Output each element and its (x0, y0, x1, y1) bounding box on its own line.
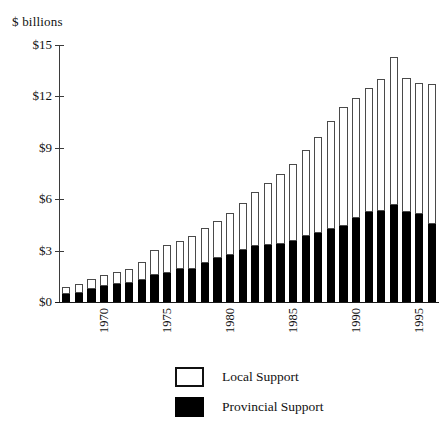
bar-segment-local-support (75, 284, 83, 293)
bar-segment-local-support (113, 272, 121, 284)
bar-segment-provincial-support (302, 236, 310, 302)
bar-segment-local-support (125, 269, 133, 283)
bar-1991 (352, 98, 360, 302)
bar-1983 (251, 192, 259, 302)
bar-1989 (327, 121, 335, 302)
bar-1994 (390, 57, 398, 302)
bar-segment-local-support (339, 107, 347, 226)
x-axis-tick-label-1985: 1985 (286, 308, 301, 333)
legend-item-local: Local Support (175, 362, 415, 392)
bar-1981 (226, 213, 234, 302)
bar-segment-provincial-support (188, 269, 196, 302)
bar-1990 (339, 107, 347, 302)
bar-segment-local-support (390, 57, 398, 205)
bar-segment-local-support (188, 236, 196, 269)
y-axis-tick-label: $15 (33, 37, 53, 53)
x-axis-tick-label-1970: 1970 (97, 308, 112, 333)
bar-1988 (314, 137, 322, 302)
bar-segment-local-support (100, 275, 108, 286)
bar-segment-provincial-support (87, 289, 95, 302)
bar-segment-provincial-support (352, 218, 360, 302)
bar-1975 (150, 250, 158, 302)
bar-segment-provincial-support (428, 224, 436, 302)
bar-1973 (125, 269, 133, 302)
bar-segment-local-support (213, 221, 221, 258)
bar-1980 (213, 221, 221, 302)
bar-segment-local-support (239, 203, 247, 250)
bar-segment-local-support (276, 174, 284, 243)
y-axis-tick-labels: $0$3$6$9$12$15 (0, 0, 52, 443)
y-axis-tick-label: $0 (39, 294, 52, 310)
legend-swatch-local (175, 367, 204, 387)
bar-1985 (276, 174, 284, 302)
bar-segment-provincial-support (276, 244, 284, 302)
x-axis-line (55, 302, 439, 303)
bar-segment-provincial-support (226, 255, 234, 302)
bar-segment-provincial-support (113, 284, 121, 302)
bar-1978 (188, 236, 196, 302)
bar-segment-provincial-support (390, 205, 398, 302)
bar-1996 (415, 83, 423, 302)
bar-1992 (365, 88, 373, 302)
legend-item-prov: Provincial Support (175, 392, 415, 422)
bar-segment-provincial-support (150, 275, 158, 302)
bar-segment-provincial-support (100, 286, 108, 302)
bar-segment-provincial-support (75, 293, 83, 302)
bar-segment-local-support (314, 137, 322, 233)
plot-area (60, 45, 438, 302)
bar-1972 (113, 272, 121, 302)
chart-legend: Local SupportProvincial Support (175, 362, 415, 422)
bar-segment-local-support (327, 121, 335, 229)
bar-1995 (402, 78, 410, 302)
x-axis-tick-label-1975: 1975 (160, 308, 175, 333)
bar-segment-provincial-support (377, 211, 385, 302)
bar-segment-provincial-support (402, 212, 410, 302)
bar-1993 (377, 79, 385, 302)
legend-label: Local Support (222, 369, 299, 385)
chart-figure: $ billions $0$3$6$9$12$15 19701975198019… (0, 0, 446, 443)
bar-segment-local-support (163, 245, 171, 272)
bar-segment-local-support (138, 262, 146, 280)
bar-segment-provincial-support (365, 212, 373, 302)
bar-1986 (289, 164, 297, 302)
bar-segment-provincial-support (314, 233, 322, 302)
y-axis-tick-label: $9 (39, 140, 52, 156)
bar-segment-provincial-support (327, 229, 335, 302)
bar-segment-local-support (302, 150, 310, 236)
y-axis-tick-label: $12 (33, 88, 53, 104)
bar-segment-provincial-support (264, 245, 272, 302)
bar-segment-provincial-support (239, 250, 247, 302)
bar-1976 (163, 245, 171, 302)
bar-segment-provincial-support (176, 269, 184, 302)
bar-1969 (75, 284, 83, 302)
bar-segment-provincial-support (289, 241, 297, 302)
bar-segment-local-support (289, 164, 297, 241)
bar-1977 (176, 241, 184, 302)
bar-segment-local-support (176, 241, 184, 269)
bar-segment-local-support (251, 192, 259, 246)
bar-segment-provincial-support (339, 226, 347, 302)
bar-segment-provincial-support (138, 280, 146, 302)
x-axis-tick-label-1995: 1995 (412, 308, 427, 333)
bar-1982 (239, 203, 247, 302)
bar-segment-local-support (201, 228, 209, 263)
x-axis-tick-label-1980: 1980 (223, 308, 238, 333)
bar-segment-provincial-support (62, 294, 70, 302)
bar-1970 (87, 279, 95, 302)
bar-segment-local-support (402, 78, 410, 212)
bar-segment-local-support (428, 84, 436, 224)
bar-segment-local-support (365, 88, 373, 212)
legend-swatch-prov (175, 397, 204, 417)
bar-segment-local-support (87, 279, 95, 289)
bar-segment-local-support (377, 79, 385, 211)
bar-1974 (138, 262, 146, 302)
bar-1979 (201, 228, 209, 302)
bar-segment-local-support (226, 213, 234, 255)
bar-segment-provincial-support (251, 246, 259, 302)
bar-1987 (302, 150, 310, 302)
x-axis-tick-label-1990: 1990 (349, 308, 364, 333)
bar-segment-provincial-support (125, 283, 133, 302)
legend-label: Provincial Support (222, 399, 324, 415)
bar-segment-local-support (264, 183, 272, 246)
bar-1984 (264, 183, 272, 302)
